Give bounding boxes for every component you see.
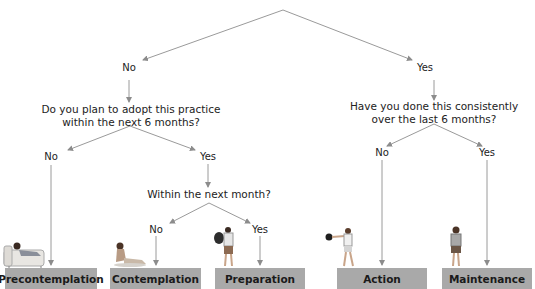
consistent-yes-label: Yes [479,147,495,158]
person-with-towel-illustration [446,226,468,270]
root-no-label: No [122,62,136,73]
stage-label: Maintenance [449,273,525,285]
month-yes-label: Yes [252,224,268,235]
question-line: over the last 6 months? [350,113,518,126]
person-with-kettlebell-illustration [325,227,359,271]
month-no-label: No [149,224,163,235]
stage-label: Preparation [225,273,295,285]
stage-maintenance: Maintenance [442,268,532,289]
stage-preparation: Preparation [215,268,305,289]
stage-label: Contemplation [112,273,199,285]
question-plan-6-months: Do you plan to adopt this practice withi… [42,103,221,129]
root-yes-label: Yes [417,62,433,73]
person-on-couch-illustration [3,238,48,270]
question-next-month: Within the next month? [147,188,271,201]
person-with-gym-bag-illustration [213,226,241,270]
stage-contemplation: Contemplation [110,268,201,289]
consistent-no-label: No [375,147,389,158]
stage-action: Action [337,268,427,289]
plan-no-label: No [44,151,58,162]
stage-label: Action [363,273,401,285]
stage-label: Precontemplation [0,273,104,285]
question-line: Do you plan to adopt this practice [42,103,221,116]
question-line: Have you done this consistently [350,100,518,113]
question-line: within the next 6 months? [42,116,221,129]
person-sitting-illustration [112,240,152,268]
plan-yes-label: Yes [200,151,216,162]
stage-precontemplation: Precontemplation [5,268,97,289]
question-consistent-6-months: Have you done this consistently over the… [350,100,518,126]
